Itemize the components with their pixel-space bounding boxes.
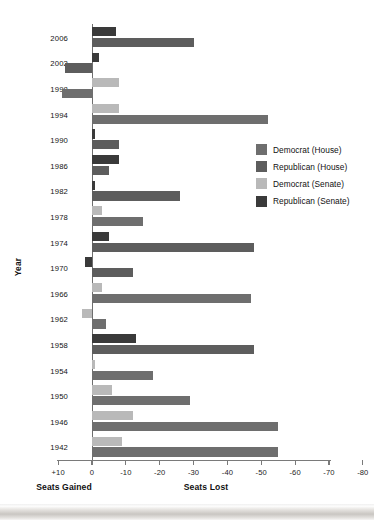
- bar-2002-house: [65, 63, 92, 72]
- x-tick--10: [125, 460, 126, 465]
- bar-1962-senate: [82, 309, 92, 318]
- x-tick-label--70: -70: [312, 468, 346, 477]
- x-tick-label--10: -10: [109, 468, 143, 477]
- year-label-1994: 1994: [24, 111, 68, 120]
- chart-canvas: +100-10-20-30-40-50-60-70-80 20062002199…: [0, 0, 374, 520]
- year-label-1958: 1958: [24, 341, 68, 350]
- page-bottom-edge: [0, 506, 374, 520]
- x-tick--20: [159, 460, 160, 465]
- x-tick-label--40: -40: [210, 468, 244, 477]
- x-tick--70: [328, 460, 329, 465]
- bar-1950-senate: [92, 385, 112, 394]
- x-tick--30: [193, 460, 194, 465]
- legend-label-3: Republican (Senate): [273, 196, 350, 206]
- bar-2006-senate: [92, 27, 116, 36]
- legend-item-0[interactable]: Democrat (House): [256, 141, 350, 158]
- bar-1978-senate: [92, 206, 102, 215]
- bar-1966-house: [92, 294, 251, 303]
- x-axis-title-right: Seats Lost: [160, 482, 252, 492]
- bar-1998-senate: [92, 78, 119, 87]
- year-label-1942: 1942: [24, 443, 68, 452]
- legend-item-2[interactable]: Democrat (Senate): [256, 175, 350, 192]
- legend-item-1[interactable]: Republican (House): [256, 158, 350, 175]
- bar-1946-senate: [92, 411, 133, 420]
- bar-1942-house: [92, 447, 278, 456]
- x-tick-label-0: 0: [75, 468, 109, 477]
- bar-1954-senate: [92, 360, 95, 369]
- x-tick-label--60: -60: [278, 468, 312, 477]
- legend-swatch-icon-0: [256, 144, 267, 155]
- year-label-2006: 2006: [24, 34, 68, 43]
- bar-1982-house: [92, 191, 180, 200]
- bar-1986-senate: [92, 155, 119, 164]
- bar-1986-house: [92, 166, 109, 175]
- bar-1958-senate: [92, 334, 136, 343]
- plot-area: +100-10-20-30-40-50-60-70-80 20062002199…: [0, 0, 374, 520]
- legend-label-0: Democrat (House): [273, 145, 342, 155]
- bar-1970-senate: [85, 257, 92, 266]
- year-label-1970: 1970: [24, 264, 68, 273]
- bar-1994-house: [92, 115, 268, 124]
- x-tick-label--20: -20: [143, 468, 177, 477]
- year-label-1962: 1962: [24, 315, 68, 324]
- bar-1970-house: [92, 268, 133, 277]
- x-tick-label--50: -50: [244, 468, 278, 477]
- x-tick-label--80: -80: [346, 468, 374, 477]
- legend-label-1: Republican (House): [273, 162, 347, 172]
- legend-swatch-icon-3: [256, 196, 267, 207]
- bar-1998-house: [62, 89, 92, 98]
- legend-item-3[interactable]: Republican (Senate): [256, 193, 350, 210]
- year-label-1950: 1950: [24, 392, 68, 401]
- x-tick--60: [295, 460, 296, 465]
- x-tick-+10: [58, 460, 59, 465]
- bar-2006-house: [92, 38, 194, 47]
- bar-1954-house: [92, 371, 153, 380]
- year-label-1974: 1974: [24, 239, 68, 248]
- x-tick--50: [261, 460, 262, 465]
- bar-1942-senate: [92, 437, 122, 446]
- bar-1974-senate: [92, 232, 109, 241]
- legend-swatch-icon-1: [256, 161, 267, 172]
- chart-legend: Democrat (House)Republican (House)Democr…: [256, 141, 350, 210]
- year-label-2002: 2002: [24, 59, 68, 68]
- x-axis-title-left: Seats Gained: [18, 482, 110, 492]
- bar-1994-senate: [92, 104, 119, 113]
- x-tick-0: [91, 460, 92, 465]
- year-label-1986: 1986: [24, 162, 68, 171]
- bar-1990-house: [92, 140, 119, 149]
- x-tick-label-+10: +10: [41, 468, 75, 477]
- y-axis-title: Year: [13, 237, 23, 297]
- legend-label-2: Democrat (Senate): [273, 179, 344, 189]
- bar-2002-senate: [92, 53, 99, 62]
- year-label-1982: 1982: [24, 187, 68, 196]
- year-label-1978: 1978: [24, 213, 68, 222]
- x-tick-label--30: -30: [177, 468, 211, 477]
- year-label-1946: 1946: [24, 418, 68, 427]
- bar-1990-senate: [92, 129, 95, 138]
- bar-1946-house: [92, 422, 278, 431]
- year-label-1954: 1954: [24, 367, 68, 376]
- year-label-1990: 1990: [24, 136, 68, 145]
- bar-1974-house: [92, 243, 254, 252]
- bar-1966-senate: [92, 283, 102, 292]
- legend-swatch-icon-2: [256, 178, 267, 189]
- bar-1978-house: [92, 217, 143, 226]
- bar-1982-senate: [92, 181, 95, 190]
- x-tick--40: [227, 460, 228, 465]
- bar-1958-house: [92, 345, 254, 354]
- year-label-1966: 1966: [24, 290, 68, 299]
- bar-1962-house: [92, 319, 106, 328]
- bar-1950-house: [92, 396, 190, 405]
- x-tick--80: [362, 460, 363, 465]
